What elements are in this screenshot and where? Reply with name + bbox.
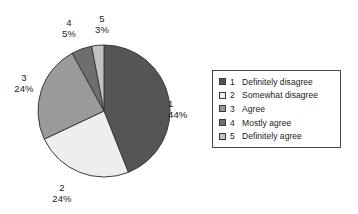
slice-label-1-percent: 44%: [168, 109, 208, 120]
legend-item-label: Definitely agree: [242, 131, 302, 141]
legend-item-key: 2: [230, 90, 242, 100]
slice-label-2-percent: 24%: [44, 193, 80, 204]
legend-item-key: 4: [230, 118, 242, 128]
legend-swatch-icon: [219, 105, 226, 112]
legend-item-key: 3: [230, 104, 242, 114]
slice-label-5: 5 3%: [88, 13, 116, 35]
legend-swatch-icon: [219, 119, 226, 126]
legend-item: 5 Definitely agree: [219, 129, 336, 143]
slice-label-4-key: 4: [55, 17, 83, 28]
legend-swatch-icon: [219, 92, 226, 99]
legend-item-label: Mostly agree: [242, 118, 291, 128]
chart-legend: 1 Definitely disagree 2 Somewhat disagre…: [212, 70, 341, 148]
legend-item-key: 1: [230, 77, 242, 87]
legend-item-label: Somewhat disagree: [242, 90, 318, 100]
slice-label-2: 2 24%: [44, 182, 80, 204]
legend-swatch-icon: [219, 133, 226, 140]
slice-label-1-key: 1: [168, 98, 208, 109]
pie-chart-figure: 1 44% 2 24% 3 24% 4 5% 5 3% 1 Definitely…: [0, 0, 358, 214]
slice-label-5-percent: 3%: [88, 24, 116, 35]
pie-slices-group: [38, 45, 170, 177]
slice-label-5-key: 5: [88, 13, 116, 24]
legend-item-label: Definitely disagree: [242, 77, 313, 87]
slice-label-4-percent: 5%: [55, 28, 83, 39]
legend-item: 1 Definitely disagree: [219, 75, 336, 89]
pie-plot-area: 1 44% 2 24% 3 24% 4 5% 5 3%: [0, 0, 210, 214]
slice-label-3-percent: 24%: [6, 83, 42, 94]
legend-item: 3 Agree: [219, 102, 336, 116]
slice-label-2-key: 2: [44, 182, 80, 193]
slice-label-1: 1 44%: [168, 98, 208, 120]
slice-label-4: 4 5%: [55, 17, 83, 39]
slice-label-3: 3 24%: [6, 72, 42, 94]
legend-item-key: 5: [230, 131, 242, 141]
legend-item: 4 Mostly agree: [219, 116, 336, 130]
legend-item-label: Agree: [242, 104, 265, 114]
legend-item: 2 Somewhat disagree: [219, 89, 336, 103]
legend-swatch-icon: [219, 78, 226, 85]
slice-label-3-key: 3: [6, 72, 42, 83]
